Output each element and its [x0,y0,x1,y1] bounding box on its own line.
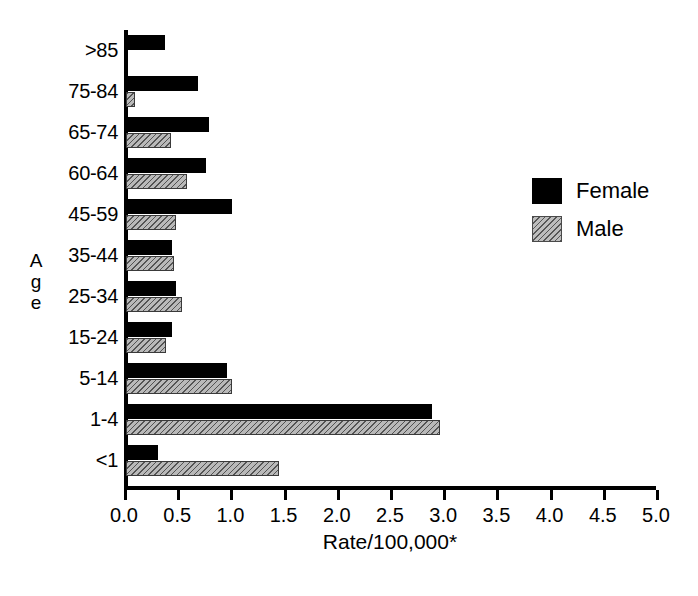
x-axis-tick-label: 4.0 [520,504,580,526]
y-axis-category-label: >85 [40,40,118,60]
bar-male [126,215,176,230]
bar-male [126,174,187,189]
x-axis-tick [230,490,233,500]
legend-item-female: Female [532,172,692,210]
x-axis-tick-label: 3.0 [413,504,473,526]
x-axis-tick [124,490,127,500]
bar-male [126,461,279,476]
bar-group [126,441,658,482]
x-axis-tick-label: 1.5 [254,504,314,526]
x-axis-tick [390,490,393,500]
y-axis-category-label: 15-24 [40,327,118,347]
bar-female [126,158,206,173]
x-axis-tick [443,490,446,500]
y-axis-category-label: <1 [40,450,118,470]
bar-female [126,117,209,132]
bar-group [126,400,658,441]
x-axis-tick-label: 1.0 [200,504,260,526]
bar-female [126,281,176,296]
bar-group [126,30,658,71]
bar-female [126,240,172,255]
plot-area: 0.00.51.01.52.02.53.03.54.04.55.0 [124,30,656,482]
bar-female [126,76,198,91]
bar-female [126,35,165,50]
y-axis-category-label: 35-44 [40,245,118,265]
bar-group [126,71,658,112]
x-axis-tick [656,490,659,500]
x-axis-tick-label: 5.0 [626,504,686,526]
y-axis-category-label: 25-34 [40,286,118,306]
x-axis-tick [603,490,606,500]
bar-group [126,318,658,359]
bar-male [126,92,135,107]
bar-female [126,322,172,337]
x-axis-tick-label: 0.0 [94,504,154,526]
y-axis-category-label: 5-14 [40,368,118,388]
x-axis-tick [337,490,340,500]
bar-male [126,420,440,435]
x-axis-tick [550,490,553,500]
x-axis-tick-label: 2.0 [307,504,367,526]
bar-group [126,359,658,400]
y-axis-category-label: 1-4 [40,409,118,429]
legend-label-male: Male [576,217,624,241]
x-axis-title: Rate/100,000* [124,530,656,554]
bar-male [126,338,166,353]
bar-male [126,297,182,312]
x-axis-tick-label: 2.5 [360,504,420,526]
x-axis-tick-label: 4.5 [573,504,633,526]
x-axis-tick-label: 3.5 [466,504,526,526]
legend-label-female: Female [576,179,649,203]
bar-chart-figure: A g e >8575-8465-7460-6445-5935-4425-341… [0,0,698,596]
x-axis-tick-label: 0.5 [147,504,207,526]
y-axis-category-labels: >8575-8465-7460-6445-5935-4425-3415-245-… [40,30,118,482]
y-axis-category-label: 45-59 [40,204,118,224]
legend-item-male: Male [532,210,692,248]
x-axis-tick [496,490,499,500]
x-axis-tick [177,490,180,500]
bar-female [126,404,432,419]
y-axis-category-label: 65-74 [40,122,118,142]
bar-group [126,277,658,318]
legend-swatch-male-icon [532,216,562,242]
bar-male [126,379,232,394]
chart-legend: Female Male [532,172,692,248]
bar-female [126,363,227,378]
y-axis-category-label: 75-84 [40,81,118,101]
bar-female [126,445,158,460]
bar-male [126,256,174,271]
bar-male [126,133,171,148]
y-axis-category-label: 60-64 [40,163,118,183]
x-axis-tick [284,490,287,500]
bar-female [126,199,232,214]
bar-group [126,112,658,153]
legend-swatch-female-icon [532,178,562,204]
